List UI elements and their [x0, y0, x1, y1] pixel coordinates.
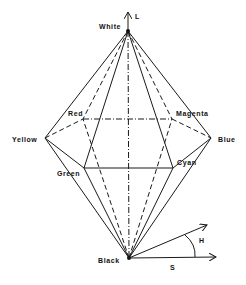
axis-label-s: S [170, 264, 175, 271]
axis-label-h: H [199, 237, 205, 244]
vertex-label-white: White [99, 23, 121, 30]
vertex-label-yellow: Yellow [12, 136, 37, 143]
vertex-label-magenta: Magenta [176, 110, 209, 118]
vertex-label-cyan: Cyan [177, 159, 197, 167]
vertex-label-green: Green [57, 170, 80, 177]
vertex-label-red: Red [68, 110, 83, 117]
hls-hexcone-diagram: L White Red Magenta Yellow Blue Green Cy… [0, 0, 246, 285]
white-vertex [126, 29, 130, 33]
lower-cone-edges [45, 119, 211, 258]
center-axis-line [128, 31, 129, 258]
axis-label-l: L [135, 13, 140, 20]
vertex-label-blue: Blue [218, 136, 236, 143]
vertex-label-black: Black [98, 257, 120, 264]
hue-angle-arc [185, 235, 195, 257]
